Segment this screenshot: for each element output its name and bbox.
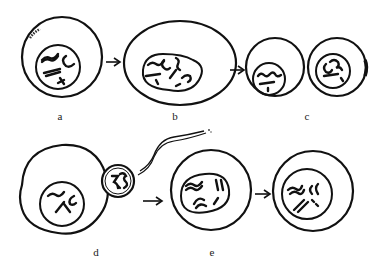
cell-a	[22, 17, 102, 97]
cell-b	[124, 21, 236, 105]
cell-c-right	[308, 38, 367, 96]
arrow-e-to-f	[255, 190, 270, 198]
cell-d	[20, 145, 108, 234]
chromosomes-a	[42, 54, 74, 84]
nucleus-b	[143, 54, 202, 91]
label-a: a	[58, 110, 63, 122]
chromosomes-e-final	[288, 184, 318, 212]
chromosomes-e	[186, 180, 223, 208]
label-c: c	[305, 110, 310, 122]
arrow-d-to-e	[143, 197, 162, 205]
figure: a b c d e	[0, 0, 382, 273]
chromosomes-c-right	[324, 60, 343, 81]
chromosomes-c-left	[258, 73, 281, 92]
sperm-head	[102, 165, 134, 197]
cell-e	[171, 150, 251, 230]
diagram-canvas	[0, 0, 382, 273]
label-b: b	[172, 110, 178, 122]
arrow-b-to-c	[230, 66, 244, 74]
label-e: e	[210, 246, 215, 258]
chromosomes-b	[146, 58, 191, 86]
arrow-a-to-b	[106, 58, 120, 66]
cell-e-final	[273, 151, 353, 231]
chromosomes-d	[48, 192, 76, 212]
cell-c-left	[246, 38, 304, 96]
label-d: d	[93, 246, 99, 258]
